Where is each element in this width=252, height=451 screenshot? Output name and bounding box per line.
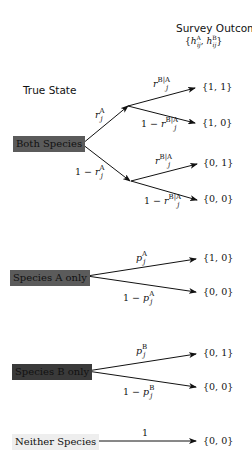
survey-outcome-heading: Survey Outcome <box>176 22 252 34</box>
outcome-b-0-1: {0, 1} <box>203 347 233 358</box>
state-species-a-only: Species A only <box>10 270 90 286</box>
edge-label-rBA-upper: rB|Aj <box>153 76 168 92</box>
edge-label-one: 1 <box>142 427 148 438</box>
state-both-species: Both Species <box>13 136 85 152</box>
edge-label-1-minus-rBA-lower: 1 − rB|Aj <box>144 193 179 209</box>
outcome-a-1-0: {1, 0} <box>203 252 233 263</box>
edge-label-rBA-lower: rB|Aj <box>155 153 170 169</box>
edge-label-rA: rAj <box>95 107 103 123</box>
state-species-b-only: Species B only <box>12 364 92 380</box>
edge-label-1-minus-pB: 1 − pBj <box>123 384 152 400</box>
outcome-0-1: {0, 1} <box>203 157 233 168</box>
state-neither-species: Neither Species <box>12 434 99 450</box>
true-state-heading: True State <box>23 84 76 96</box>
outcome-neither-0-0: {0, 0} <box>203 435 233 446</box>
outcome-0-0: {0, 0} <box>203 193 233 204</box>
outcome-1-0: {1, 0} <box>202 117 232 128</box>
outcome-a-0-0: {0, 0} <box>203 286 233 297</box>
edge-label-pB: pBj <box>136 343 145 359</box>
survey-outcome-notation: {hAij, hBij} <box>185 34 222 48</box>
edge-label-1-minus-rBA-upper: 1 − rB|Aj <box>141 116 176 132</box>
outcome-1-1: {1, 1} <box>202 81 232 92</box>
edge-label-1-minus-pA: 1 − pAj <box>123 290 152 306</box>
outcome-b-0-0: {0, 0} <box>203 381 233 392</box>
edge-label-pA: pAj <box>136 250 145 266</box>
edge-label-1-minus-rA: 1 − rAj <box>75 164 103 180</box>
